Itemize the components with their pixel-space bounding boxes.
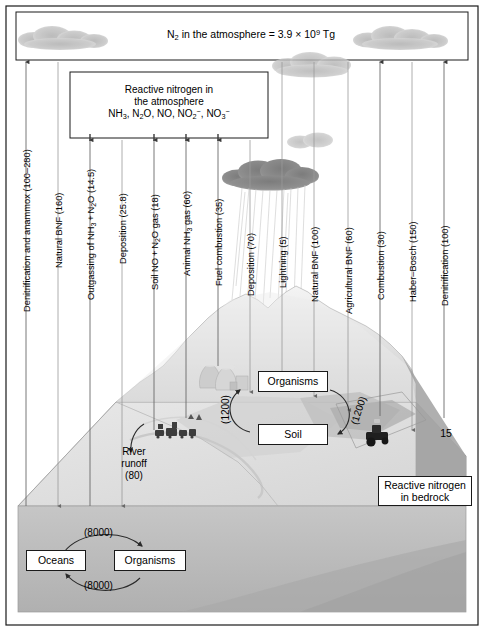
river-runoff-line-1: River: [105, 446, 163, 458]
soil-box: Soil: [258, 424, 328, 445]
flux-label-haber-bosch: Haber–Bosch (150): [408, 221, 418, 302]
bedrock-box: Reactive nitrogen in bedrock: [378, 476, 472, 506]
flux-label-combustion: Combustion (30): [376, 231, 386, 300]
ocean-cycle-bottom-value: (8000): [84, 580, 113, 591]
bedrock-line-1: Reactive nitrogen: [384, 479, 466, 491]
flux-label-deposition-land: Deposition (70): [246, 233, 256, 296]
river-runoff-line-3: (80): [105, 470, 163, 482]
flux-label-agricultural-bnf: Agricultural BNF (60): [344, 227, 354, 314]
flux-label-deposition-ocean: Deposition (25.8): [118, 193, 128, 264]
reactive-line-1: Reactive nitrogen in: [70, 84, 268, 96]
flux-label-animal-nh3: Animal NH3 gas (60): [182, 191, 193, 276]
flux-label-denitrification: Denitrification (100): [440, 225, 450, 306]
flux-label-soil-no-n2o: Soil NO + N2O gas (18): [150, 194, 161, 290]
flux-label-fuel-combustion: Fuel combustion (35): [214, 199, 224, 286]
flux-label-natural-bnf-land: Natural BNF (100): [310, 227, 320, 302]
reactive-line-2: the atmosphere: [70, 96, 268, 108]
river-runoff-line-2: runoff: [105, 458, 163, 470]
flux-label-lightning: Lightning (5): [278, 236, 288, 288]
atmosphere-title: N2 in the atmosphere = 3.9 × 109 Tg: [167, 28, 335, 42]
reactive-species: NH3, N2O, NO, NO2−, NO3−: [70, 108, 268, 122]
bedrock-value: 15: [437, 427, 455, 439]
ocean-cycle-top-value: (8000): [84, 527, 113, 538]
flux-label-natural-bnf-ocean: Natural BNF (160): [54, 193, 64, 268]
nitrogen-cycle-figure: N2 in the atmosphere = 3.9 × 109 Tg Reac…: [0, 0, 484, 631]
reactive-nitrogen-text: Reactive nitrogen in the atmosphere NH3,…: [70, 84, 268, 121]
cloud-center-lower: [287, 133, 333, 149]
bedrock-line-2: in bedrock: [401, 491, 449, 503]
organisms-land-box: Organisms: [258, 371, 328, 392]
cycle-value-left: (1200): [220, 395, 231, 424]
organisms-ocean-box: Organisms: [114, 550, 186, 571]
flux-label-outgassing: Outgassing of NH3 + N2O (14.5): [86, 169, 97, 300]
rain-cloud: [222, 159, 319, 191]
flux-label-denitrification-anammox: Denitrification and anammox (100–280): [22, 149, 32, 312]
river-runoff-label: River runoff (80): [105, 446, 163, 481]
oceans-box: Oceans: [26, 550, 86, 571]
